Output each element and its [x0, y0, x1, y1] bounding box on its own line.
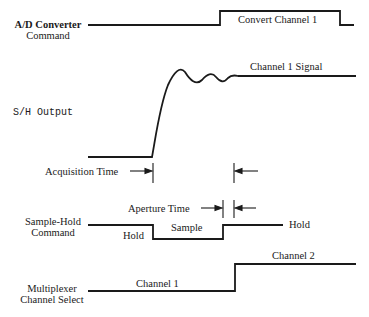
timing-diagram: A/D Converter Command Convert Channel 1 …: [0, 0, 369, 317]
sh-command-label-line2: Command: [20, 227, 86, 238]
sh-command-label-line1: Sample-Hold: [20, 216, 86, 227]
waveforms: [0, 0, 369, 317]
acq-left-arrowhead: [145, 169, 152, 174]
mux-label-line2: Channel Select: [16, 294, 88, 305]
ad-command-label-line2: Command: [10, 30, 86, 41]
sample-label: Sample: [171, 222, 203, 233]
ad-command-label: A/D Converter Command: [10, 19, 86, 41]
channel-1-label: Channel 1: [136, 278, 179, 289]
sh-command-label: Sample-Hold Command: [20, 216, 86, 238]
hold-left-label: Hold: [123, 230, 144, 241]
aperture-right-arrowhead: [235, 206, 242, 211]
mux-label-line1: Multiplexer: [16, 283, 88, 294]
mux-label: Multiplexer Channel Select: [16, 283, 88, 305]
hold-right-label: Hold: [289, 219, 310, 230]
acq-right-arrowhead: [235, 169, 242, 174]
channel-2-label: Channel 2: [272, 250, 315, 261]
sh-output-waveform: [88, 70, 356, 157]
acquisition-time-label: Acquisition Time: [45, 166, 118, 177]
aperture-time-label: Aperture Time: [128, 203, 190, 214]
convert-channel-1-label: Convert Channel 1: [238, 14, 317, 25]
sh-output-label: S/H Output: [13, 107, 73, 118]
aperture-left-arrowhead: [215, 206, 222, 211]
mux-waveform: [88, 264, 356, 291]
ad-command-label-line1: A/D Converter: [10, 19, 86, 30]
channel-1-signal-label: Channel 1 Signal: [250, 61, 322, 72]
